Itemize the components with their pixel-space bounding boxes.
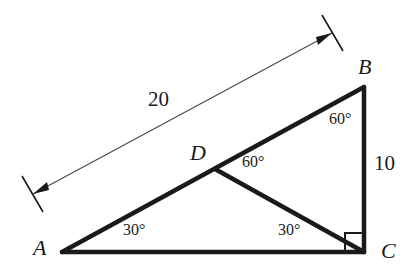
segment-DC [215,169,364,252]
angle-label-at-B: 60° [329,111,351,127]
dimension-tick-left [22,176,43,212]
vertex-label-A: A [33,237,46,259]
dimension-line-shaft [33,33,332,194]
vertex-label-C: C [381,240,396,262]
measure-label-10: 10 [374,153,395,174]
angle-label-at-A: 30° [123,222,145,238]
measure-label-20: 20 [148,89,169,110]
dimension-arrowhead-left [33,182,49,194]
angle-label-BDC: 60° [242,154,264,170]
geometry-canvas [0,0,420,280]
dimension-line-20 [22,15,343,212]
vertex-label-D: D [190,142,206,164]
dimension-tick-right [322,15,343,51]
angle-label-DCA: 30° [278,222,300,238]
geometry-figure: A B C D 20 10 30° 30° 60° 60° [0,0,420,280]
dimension-arrowhead-right [316,33,332,45]
vertex-label-B: B [358,56,371,78]
